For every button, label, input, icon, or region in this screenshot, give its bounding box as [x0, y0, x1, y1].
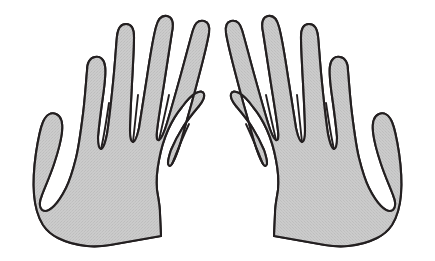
left-hand[interactable] — [34, 16, 210, 247]
right-hand[interactable] — [226, 16, 402, 247]
figure-root — [0, 0, 435, 261]
hands-illustration — [0, 0, 435, 261]
